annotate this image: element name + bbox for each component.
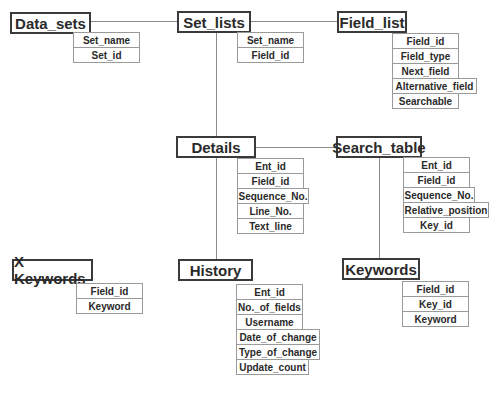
entity-title: Search_table <box>332 139 425 156</box>
field: Type_of_change <box>236 344 320 360</box>
details-fields: Ent_id Field_id Sequence_No. Line_No. Te… <box>237 158 304 234</box>
connector-set-lists-field-list <box>250 21 337 22</box>
field: Relative_position <box>403 202 489 218</box>
field: Keyword <box>76 298 143 314</box>
field: Field_id <box>237 47 304 63</box>
field: Ent_id <box>237 158 304 174</box>
field: Field_id <box>392 33 459 49</box>
field: Date_of_change <box>236 329 320 345</box>
field: Sequence_No. <box>237 188 309 204</box>
field: Searchable <box>392 93 459 109</box>
x-keywords-fields: Field_id Keyword <box>76 283 143 314</box>
entity-details: Details <box>176 136 256 158</box>
field: Field_id <box>403 172 470 188</box>
field: Key_id <box>402 296 469 312</box>
keywords-fields: Field_id Key_id Keyword <box>402 281 469 327</box>
field: Next_field <box>392 63 459 79</box>
field: Update_count <box>236 359 309 375</box>
entity-title: Details <box>191 139 240 156</box>
field-list-fields: Field_id Field_type Next_field Alternati… <box>392 33 459 109</box>
entity-title: Field_list <box>339 14 404 31</box>
field: Ent_id <box>236 284 303 300</box>
entity-field-list: Field_list <box>337 11 407 33</box>
field: Ent_id <box>403 157 470 173</box>
field: Field_id <box>402 281 469 297</box>
field: Alternative_field <box>392 78 477 94</box>
field: Line_No. <box>237 203 304 219</box>
field: Username <box>236 314 303 330</box>
field: Set_name <box>73 32 140 48</box>
field: Set_id <box>73 47 140 63</box>
connector-data-sets-set-lists <box>91 21 177 22</box>
entity-x-keywords: X Keywords <box>12 259 93 281</box>
entity-title: Keywords <box>345 261 417 278</box>
entity-title: X Keywords <box>14 253 91 287</box>
entity-title: History <box>190 262 242 279</box>
field: Field_id <box>237 173 304 189</box>
data-sets-fields: Set_name Set_id <box>73 32 140 63</box>
field: Keyword <box>402 311 469 327</box>
entity-set-lists: Set_lists <box>177 11 251 33</box>
search-table-fields: Ent_id Field_id Sequence_No. Relative_po… <box>403 157 470 233</box>
field: Key_id <box>403 217 470 233</box>
field: Set_name <box>237 32 304 48</box>
entity-search-table: Search_table <box>336 136 422 158</box>
field: No._of_fields <box>236 299 303 315</box>
entity-keywords: Keywords <box>342 258 420 280</box>
field: Text_line <box>237 218 304 234</box>
field: Field_id <box>76 283 143 299</box>
connector-details-search-table <box>256 147 336 148</box>
field: Sequence_No. <box>403 187 475 203</box>
entity-data-sets: Data_sets <box>10 12 91 34</box>
field: Field_type <box>392 48 459 64</box>
connector-search-table-keywords <box>379 157 380 259</box>
entity-title: Data_sets <box>15 15 86 32</box>
entity-title: Set_lists <box>183 14 245 31</box>
history-fields: Ent_id No._of_fields Username Date_of_ch… <box>236 284 303 375</box>
entity-history: History <box>178 259 253 281</box>
set-lists-fields: Set_name Field_id <box>237 32 304 63</box>
